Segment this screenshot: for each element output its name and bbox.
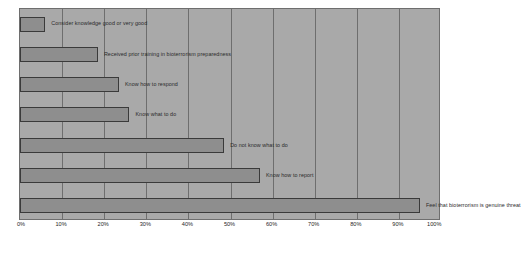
bar-row: Consider knowledge good or very good [20,9,439,39]
bar [20,77,119,92]
x-tick-label: 60% [266,222,277,228]
x-axis: 0%10%20%30%40%50%60%70%80%90%100% [19,222,440,236]
bar-label: Consider knowledge good or very good [51,21,147,26]
x-tick-label: 40% [182,222,193,228]
x-tick-label: 90% [392,222,403,228]
x-tick-label: 100% [427,222,441,228]
plot-area: Consider knowledge good or very goodRece… [19,8,440,220]
bar-row: Received prior training in bioterrorism … [20,39,439,69]
bar-label: Received prior training in bioterrorism … [104,52,231,57]
bar-label: Know how to report [266,173,314,178]
bar-row: Know what to do [20,100,439,130]
bar-row: Do not know what to do [20,130,439,160]
bar [20,47,98,62]
x-tick-label: 20% [98,222,109,228]
bar-row: Know how to respond [20,70,439,100]
bar [20,107,129,122]
x-tick-label: 10% [55,222,66,228]
x-tick-label: 30% [140,222,151,228]
x-tick-label: 80% [350,222,361,228]
bars-layer: Consider knowledge good or very goodRece… [20,9,439,219]
bar [20,138,224,153]
x-tick-label: 50% [224,222,235,228]
bar-label: Do not know what to do [230,143,288,148]
x-tick-label: 70% [308,222,319,228]
bar [20,168,260,183]
bar-label: Know what to do [135,112,176,117]
bar [20,17,45,32]
bar-label: Know how to respond [125,82,178,87]
bar-label: Feel that bioterrorism is genuine threat [426,203,521,208]
x-tick-label: 0% [17,222,25,228]
bar-row: Know how to report [20,160,439,190]
bar [20,198,420,213]
bar-row: Feel that bioterrorism is genuine threat [20,191,439,221]
